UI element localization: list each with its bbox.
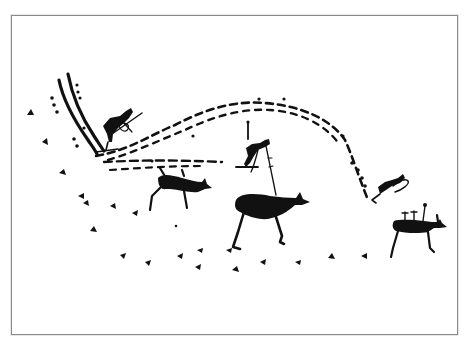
dashed-arc-trail [96,97,368,200]
elk-right [391,203,447,257]
elk-large [233,192,310,249]
elk-small [150,168,212,210]
double-line-track [50,74,104,154]
rock-art-illustration [0,0,471,351]
skier-left [96,108,142,152]
skier-center [236,120,276,195]
skier-right [372,174,408,203]
